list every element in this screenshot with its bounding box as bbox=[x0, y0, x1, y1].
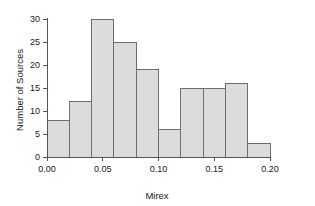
y-tick-label: 10 bbox=[30, 106, 40, 116]
x-tick-label: 0.20 bbox=[261, 164, 279, 174]
x-tick-label: 0.15 bbox=[205, 164, 223, 174]
y-tick-label: 25 bbox=[30, 37, 40, 47]
histogram-chart: 0.000.050.100.150.20 051015202530 Mirex … bbox=[0, 0, 315, 206]
y-tick-label: 30 bbox=[30, 14, 40, 24]
histogram-bar bbox=[114, 42, 136, 157]
y-tick-label: 15 bbox=[30, 83, 40, 93]
x-tick-label: 0.00 bbox=[38, 164, 56, 174]
histogram-bar bbox=[159, 129, 181, 157]
histogram-bar bbox=[92, 19, 114, 157]
x-tick-label: 0.10 bbox=[150, 164, 168, 174]
y-tick-label: 20 bbox=[30, 60, 40, 70]
x-axis-title: Mirex bbox=[145, 190, 168, 201]
histogram-bar bbox=[136, 70, 158, 157]
y-tick-label: 0 bbox=[35, 152, 40, 162]
histogram-bar bbox=[69, 102, 91, 157]
histogram-bar bbox=[203, 88, 225, 157]
x-tick-label: 0.05 bbox=[94, 164, 112, 174]
histogram-bar bbox=[47, 120, 69, 157]
histogram-bar bbox=[181, 88, 203, 157]
histogram-bar bbox=[225, 83, 247, 157]
chart-canvas: 0.000.050.100.150.20 051015202530 Mirex … bbox=[0, 0, 315, 206]
y-tick-label: 5 bbox=[35, 129, 40, 139]
y-axis-title: Number of Sources bbox=[14, 49, 25, 131]
histogram-bar bbox=[248, 143, 270, 157]
